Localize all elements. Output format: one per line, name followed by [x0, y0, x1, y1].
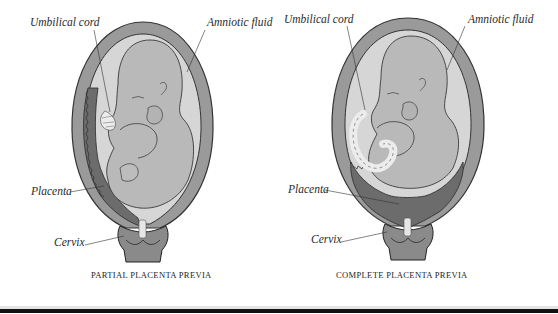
- fetus-hand: [402, 102, 418, 120]
- bottom-rule: [0, 309, 558, 313]
- partial-previa-panel: Umbilical cord Amniotic fluid Placenta C…: [0, 0, 279, 300]
- umbilical-cord-label: Umbilical cord: [30, 16, 100, 28]
- umbilical-cord-label: Umbilical cord: [284, 13, 354, 25]
- placenta-label: Placenta: [288, 183, 329, 195]
- fetus-foot: [120, 164, 138, 182]
- complete-previa-caption: COMPLETE PLACENTA PREVIA: [336, 270, 468, 280]
- complete-previa-illustration: [279, 0, 558, 300]
- cervical-os: [404, 218, 411, 236]
- fetus-hand: [147, 106, 163, 124]
- complete-previa-panel: Umbilical cord Amniotic fluid Placenta C…: [279, 0, 558, 300]
- partial-previa-illustration: [0, 0, 279, 300]
- partial-previa-caption: PARTIAL PLACENTA PREVIA: [91, 270, 212, 280]
- amniotic-fluid-label: Amniotic fluid: [207, 16, 272, 28]
- cervix-leader: [341, 232, 387, 242]
- cervical-os: [139, 220, 146, 238]
- cervix-label: Cervix: [54, 236, 85, 248]
- amniotic-fluid-label: Amniotic fluid: [468, 13, 533, 25]
- placenta-label: Placenta: [31, 185, 72, 197]
- cervix-label: Cervix: [311, 233, 342, 245]
